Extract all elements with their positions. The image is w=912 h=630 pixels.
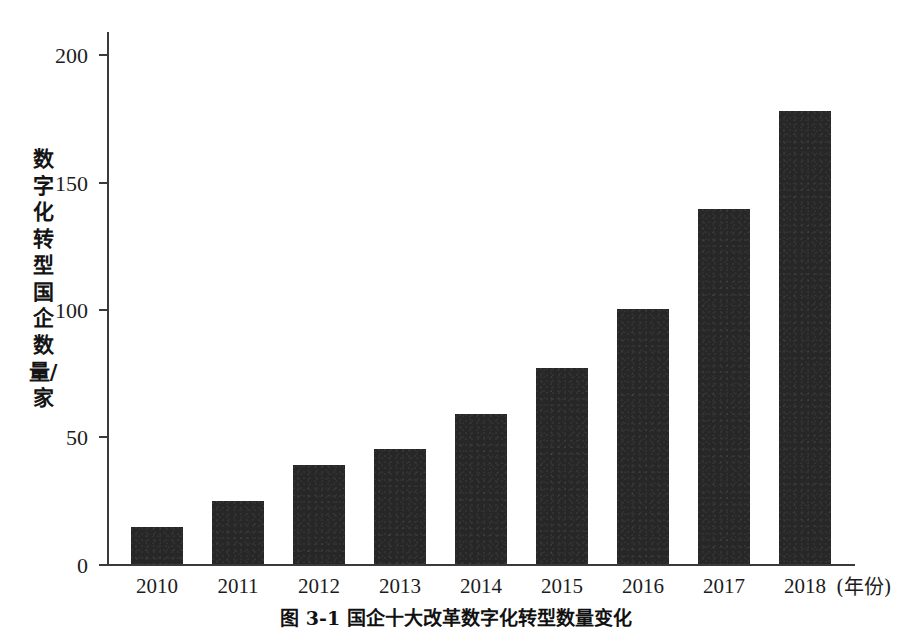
y-tick-label-100: 100: [34, 300, 88, 322]
bar-2015: [536, 368, 588, 564]
y-tick-label-200: 200: [34, 45, 88, 67]
y-tick-label-50: 50: [34, 427, 88, 449]
x-tick-label-2010: 2010: [131, 576, 183, 597]
x-tick-label-2014: 2014: [455, 576, 507, 597]
bar-chart-figure: 数字化转型国企数量/家 200 150 100 50 0 2010 2011 2…: [0, 0, 912, 630]
bar-2013: [374, 449, 426, 564]
x-tick-label-2017: 2017: [698, 576, 750, 597]
bar-2016: [617, 309, 669, 564]
x-tick-label-2013: 2013: [374, 576, 426, 597]
x-tick-label-2015: 2015: [536, 576, 588, 597]
bar-2014: [455, 414, 507, 564]
bar-2012: [293, 465, 345, 564]
x-tick-label-2016: 2016: [617, 576, 669, 597]
bar-2017: [698, 209, 750, 564]
figure-caption: 图 3-1 国企十大改革数字化转型数量变化: [0, 608, 912, 629]
bar-2018: [779, 111, 831, 564]
x-tick-label-2018: 2018: [779, 576, 831, 597]
y-tick-label-0: 0: [34, 555, 88, 577]
x-axis-unit-label: (年份): [836, 577, 892, 597]
bar-2010: [131, 527, 183, 564]
y-axis-line: [107, 32, 109, 566]
y-tick-label-150: 150: [34, 173, 88, 195]
x-tick-label-2011: 2011: [212, 576, 264, 597]
x-axis-line: [107, 564, 855, 566]
x-tick-label-2012: 2012: [293, 576, 345, 597]
bar-2011: [212, 501, 264, 564]
